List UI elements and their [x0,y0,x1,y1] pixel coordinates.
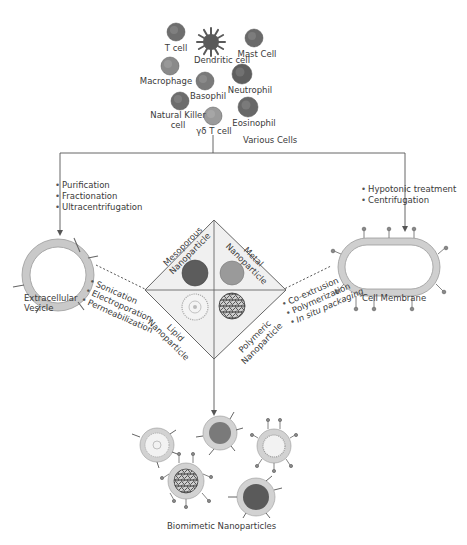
cell-label-neutrophil: Neutrophil [228,86,272,96]
cell-label-t-cell: T cell [165,44,188,54]
lipid-nanoparticle-icon [182,294,208,320]
dendritic-cell-icon [197,28,225,56]
cell-label-mast-cell: Mast Cell [238,50,277,60]
diagram-svg [0,0,467,545]
left-steps-list: Purification Fractionation Ultracentrifu… [55,180,142,213]
left-step-purification: Purification [55,180,142,191]
cell-label--t-cell: γδ T cell [196,127,231,137]
cell-membrane-label: Cell Membrane [362,294,426,304]
biomimetic-lipid-spike-np-icon [250,418,297,472]
polymeric-nanoparticle-icon [219,293,245,319]
biomimetic-nanoparticles-title: Biomimetic Nanoparticles [167,522,276,532]
diagram-canvas: T cellDendritic cellMast CellMacrophageB… [0,0,467,545]
extracellular-vesicle-label: Extracellular Vesicle [24,294,78,314]
right-step-hypotonic: Hypotonic treatment [361,184,456,195]
right-step-centrifugation: Centrifugation [361,195,456,206]
cell-label-eosinophil: Eosinophil [232,119,275,129]
right-steps-list: Hypotonic treatment Centrifugation [361,184,456,206]
cell-label-macrophage: Macrophage [140,77,192,87]
biomimetic-lipid-np-icon [132,428,180,468]
biomimetic-metal-np-icon [196,412,243,455]
cell-label-basophil: Basophil [190,92,226,102]
left-step-ultracentrifugation: Ultracentrifugation [55,202,142,213]
biomimetic-mesoporous-np-icon [228,476,282,518]
left-step-fractionation: Fractionation [55,191,142,202]
biomimetic-nanoparticles [132,412,298,518]
biomimetic-polymeric-np-icon [160,452,212,508]
various-cells-title: Various Cells [243,136,297,146]
